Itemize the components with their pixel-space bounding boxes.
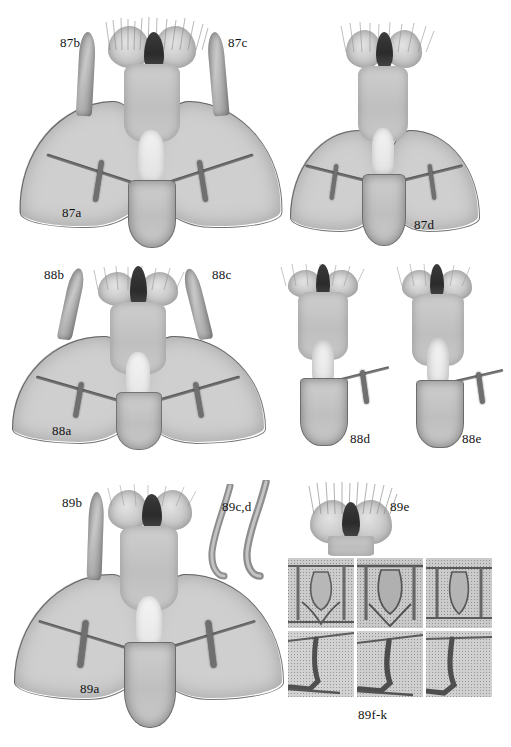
figure-group-89: 89a 89b 89c,d 89e 89f-k xyxy=(0,470,511,747)
panel-88a xyxy=(10,264,266,454)
juxta xyxy=(372,128,394,174)
juxta xyxy=(136,596,162,646)
juxta-detail xyxy=(426,558,492,628)
saccus xyxy=(300,378,348,446)
harpe-detail xyxy=(288,631,354,697)
label-88b: 88b xyxy=(44,268,64,281)
label-88d: 88d xyxy=(350,432,370,445)
harpe-detail xyxy=(426,631,492,697)
panel-89b xyxy=(88,492,103,580)
label-89a: 89a xyxy=(80,682,99,695)
panel-88d xyxy=(266,262,380,454)
panel-89e xyxy=(304,484,400,558)
detail-tile-h xyxy=(426,558,492,628)
panel-88b xyxy=(64,268,79,340)
panel-89d xyxy=(240,480,272,580)
detail-tile-i xyxy=(288,631,354,697)
label-87c: 87c xyxy=(228,36,247,49)
juxta xyxy=(427,338,449,386)
tegumen-base xyxy=(328,536,374,556)
detail-tile-j xyxy=(357,631,423,697)
label-89fk: 89f-k xyxy=(358,708,387,721)
panel-87d xyxy=(288,24,484,250)
label-88e: 88e xyxy=(462,432,481,445)
panel-87c xyxy=(210,32,226,116)
harpe-right xyxy=(476,372,485,404)
aedeagus-curve xyxy=(240,480,272,580)
detail-tile-f xyxy=(288,558,354,628)
panel-88e xyxy=(380,262,496,454)
label-88c: 88c xyxy=(212,268,231,281)
label-89cd: 89c,d xyxy=(222,500,252,513)
juxta-detail xyxy=(288,558,354,628)
harpe-right xyxy=(360,370,370,404)
panel-87b xyxy=(78,32,94,116)
saccus xyxy=(416,380,464,448)
label-87a: 87a xyxy=(62,206,81,219)
label-87d: 87d xyxy=(414,218,434,231)
juxta xyxy=(138,130,164,182)
harpe-detail xyxy=(357,631,423,697)
saccus xyxy=(124,642,176,728)
figure-group-87: 87a 87b 87c 87d xyxy=(0,0,511,255)
saccus xyxy=(116,392,162,450)
figure-group-88: 88a 88b 88c 88d 88e xyxy=(0,256,511,468)
saccus xyxy=(128,180,176,248)
detail-tile-k xyxy=(426,631,492,697)
panel-88c xyxy=(190,268,205,340)
figure-plate: 87a 87b 87c 87d xyxy=(0,0,511,747)
detail-grid-89fk xyxy=(288,558,492,700)
panel-87a xyxy=(14,20,286,250)
saccus xyxy=(362,174,406,246)
label-89e: 89e xyxy=(390,500,409,513)
label-89b: 89b xyxy=(62,496,82,509)
juxta-detail xyxy=(357,558,423,628)
aedeagus-rod xyxy=(86,492,104,580)
label-87b: 87b xyxy=(60,36,80,49)
label-88a: 88a xyxy=(52,424,71,437)
detail-tile-g xyxy=(357,558,423,628)
